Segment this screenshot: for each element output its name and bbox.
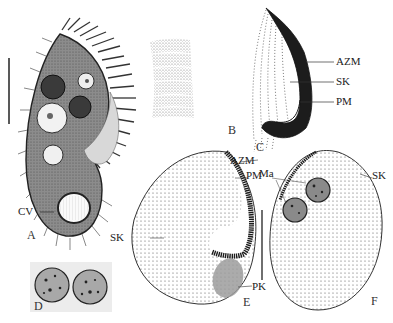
label-sk-f: SK bbox=[372, 170, 386, 181]
ciliate-figure: CV A B C D E F AZM SK PM AZM PM SK PK Ma… bbox=[0, 0, 393, 323]
macronucleus-2 bbox=[69, 96, 91, 118]
macronucleus-f-2 bbox=[283, 198, 307, 222]
panel-label-c: C bbox=[256, 141, 264, 153]
macronuclear-nodule-1 bbox=[35, 268, 69, 302]
macronucleus-1 bbox=[41, 75, 65, 99]
panel-f-ciliature bbox=[270, 151, 382, 311]
label-azm-e: AZM bbox=[230, 155, 254, 166]
panel-label-b: B bbox=[228, 124, 236, 136]
label-ma-f: Ma bbox=[259, 168, 274, 179]
panel-e-ciliature bbox=[132, 151, 262, 304]
label-pk-e: PK bbox=[252, 281, 266, 292]
panel-c-oral-apparatus bbox=[253, 8, 334, 152]
macronuclear-nodule-2 bbox=[73, 270, 107, 304]
label-azm-c: AZM bbox=[336, 56, 360, 67]
panel-label-f: F bbox=[371, 295, 378, 307]
figure-drawing bbox=[0, 0, 393, 323]
label-cv: CV bbox=[18, 206, 33, 217]
label-pm-c: PM bbox=[336, 96, 352, 107]
food-vacuole-3 bbox=[43, 145, 63, 165]
label-sk-c: SK bbox=[336, 76, 350, 87]
label-sk-e: SK bbox=[110, 232, 124, 243]
panel-label-a: A bbox=[27, 229, 36, 241]
panel-label-d: D bbox=[34, 300, 43, 312]
macronucleus-f-1 bbox=[306, 178, 330, 202]
panel-label-e: E bbox=[243, 296, 250, 308]
